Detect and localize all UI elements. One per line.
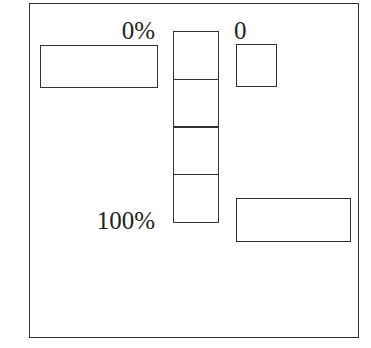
scale-cell-1 [173,31,219,80]
bottom-right-rectangle [236,198,351,242]
scale-cell-2 [173,79,219,128]
right-marker-label: 0 [234,18,247,43]
vertical-scale-stack [173,31,219,223]
small-square [236,44,277,87]
scale-bottom-label: 100% [97,208,155,233]
scale-cell-3 [173,126,219,175]
left-rectangle [40,45,158,88]
scale-cell-4 [173,174,219,223]
scale-top-label: 0% [122,18,155,43]
